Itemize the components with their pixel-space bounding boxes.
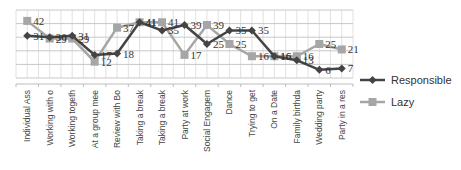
diamond-marker-icon: [369, 76, 377, 84]
x-tick-label: At a group mee: [90, 90, 100, 148]
data-label: 39: [191, 19, 203, 31]
x-tick-label: On a Date: [269, 90, 279, 129]
square-marker-icon: [369, 98, 377, 106]
diamond-marker-icon: [315, 66, 323, 74]
data-label: 39: [213, 19, 225, 31]
data-label: 35: [168, 24, 180, 36]
data-label: 35: [235, 24, 247, 36]
data-label: 7: [348, 62, 354, 74]
legend-label-responsible: Responsible: [391, 74, 452, 86]
x-tick-label: Party in a res: [337, 90, 347, 140]
data-label: 35: [258, 24, 270, 36]
x-tick-label: Working with o: [45, 90, 55, 146]
data-label: 25: [235, 38, 247, 50]
diamond-marker-icon: [23, 32, 31, 40]
data-label: 6: [325, 64, 331, 76]
x-axis-labels: Individual AssWorking with oWorking toge…: [22, 89, 347, 152]
data-label: 31: [78, 30, 89, 42]
square-marker-icon: [113, 24, 121, 32]
square-marker-icon: [248, 52, 256, 60]
x-tick-label: Dance: [224, 90, 234, 115]
x-tick-label: Trying to get: [247, 89, 257, 137]
x-tick-label: Review with Bo: [112, 90, 122, 148]
x-tick-label: Social Engagem: [202, 90, 212, 152]
square-marker-icon: [181, 51, 189, 59]
data-label: 25: [325, 38, 337, 50]
x-tick-label: Individual Ass: [22, 90, 32, 142]
x-tick-label: Taking a break: [157, 89, 167, 145]
x-tick-label: Party at work: [180, 89, 190, 139]
legend-item-lazy: Lazy: [360, 96, 415, 108]
square-marker-icon: [23, 17, 31, 25]
legend-label-lazy: Lazy: [391, 96, 415, 108]
x-tick-label: Wedding party: [314, 89, 324, 144]
data-label: 42: [33, 15, 44, 27]
data-label: 16: [280, 50, 292, 62]
square-marker-icon: [225, 40, 233, 48]
data-label: 31: [33, 30, 44, 42]
square-marker-icon: [338, 45, 346, 53]
data-label: 37: [123, 22, 135, 34]
x-tick-label: Family birthda: [292, 90, 302, 144]
x-tick-label: Working togeth: [67, 90, 77, 147]
square-marker-icon: [315, 40, 323, 48]
data-label: 41: [146, 16, 157, 28]
square-marker-icon: [203, 21, 211, 29]
data-label: 18: [123, 48, 135, 60]
legend: Responsible Lazy: [360, 74, 452, 108]
diamond-marker-icon: [338, 64, 346, 72]
legend-item-responsible: Responsible: [360, 74, 452, 86]
data-label: 16: [258, 50, 270, 62]
data-label: 21: [348, 43, 359, 55]
data-label: 17: [191, 49, 203, 61]
data-label: 13: [303, 54, 315, 66]
line-chart: 4229291237414117392516161625213130311718…: [0, 0, 461, 170]
data-label: 25: [213, 38, 225, 50]
x-tick-label: Taking a break: [135, 89, 145, 145]
square-marker-icon: [158, 18, 166, 26]
data-label: 30: [56, 31, 67, 43]
data-label: 17: [101, 49, 113, 61]
